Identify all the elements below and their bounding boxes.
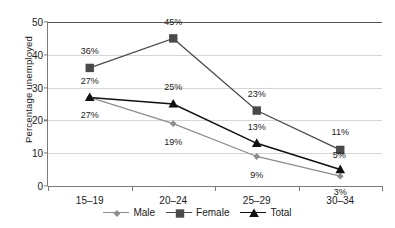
series-line-female [90, 38, 341, 150]
x-tick-mark [382, 186, 383, 191]
data-point-label: 11% [332, 127, 349, 137]
y-tick-label: 0 [37, 181, 43, 192]
square-marker-icon-glyph [175, 208, 185, 219]
legend-label: Female [196, 207, 229, 218]
legend-item-total[interactable]: Total [240, 207, 291, 218]
triangle-marker-icon [85, 92, 95, 101]
data-point-label: 27% [81, 110, 99, 120]
triangle-marker-icon-glyph [249, 208, 259, 219]
triangle-marker-icon [240, 207, 266, 218]
legend-item-female[interactable]: Female [166, 207, 229, 218]
chart-legend: MaleFemaleTotal [0, 207, 395, 218]
diamond-marker-icon [337, 173, 344, 180]
series-line-total [90, 97, 341, 169]
legend-item-male[interactable]: Male [103, 207, 155, 218]
diamond-marker-icon-glyph [112, 208, 122, 219]
square-marker-icon [253, 106, 261, 114]
data-point-label: 9% [250, 170, 263, 180]
y-tick-label: 20 [32, 115, 43, 126]
data-point-label: 23% [248, 89, 266, 99]
plot-area: 01020304050 15–1920–2425–2930–34 27%19%9… [48, 22, 382, 186]
data-point-label: 45% [164, 17, 182, 27]
data-point-label: 13% [248, 122, 266, 132]
data-point-label: 25% [164, 82, 182, 92]
data-point-label: 27% [81, 76, 99, 86]
diamond-marker-icon [114, 210, 121, 217]
triangle-marker-icon [250, 209, 260, 218]
diamond-marker-icon [253, 153, 260, 160]
x-tick-label: 20–24 [159, 195, 187, 206]
data-point-label: 36% [81, 46, 99, 56]
data-point-label: 5% [333, 150, 346, 160]
square-marker-icon [169, 34, 177, 42]
square-marker-icon [86, 64, 94, 72]
y-tick-label: 40 [32, 49, 43, 60]
legend-label: Male [133, 207, 155, 218]
y-tick-label: 30 [32, 82, 43, 93]
diamond-marker-icon [103, 207, 129, 218]
y-tick-label: 10 [32, 148, 43, 159]
legend-label: Total [270, 207, 291, 218]
data-point-label: 19% [164, 137, 182, 147]
x-tick-label: 15–19 [76, 195, 104, 206]
square-marker-icon [166, 207, 192, 218]
series-line-male [90, 97, 341, 176]
x-tick-label: 25–29 [243, 195, 271, 206]
data-point-label: 3% [334, 187, 347, 197]
y-tick-label: 50 [32, 17, 43, 28]
line-chart: Percentage unemployed 01020304050 15–192… [0, 0, 395, 228]
square-marker-icon [176, 209, 184, 217]
diamond-marker-icon [170, 120, 177, 127]
